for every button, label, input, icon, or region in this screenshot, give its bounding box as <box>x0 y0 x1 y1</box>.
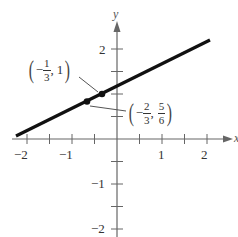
y-axis-arrow-icon <box>114 21 121 32</box>
fraction-two-thirds: 2 3 <box>143 101 151 126</box>
leader-line-point1 <box>79 77 98 92</box>
tick-label-y-neg1: −1 <box>91 177 105 190</box>
tick-label-y-neg2: −2 <box>91 222 105 235</box>
tick-label-y-2: 2 <box>99 43 106 56</box>
tick-label-x-1: 1 <box>158 148 165 161</box>
tick-label-x-neg1: −1 <box>59 148 73 161</box>
coordinate-plane <box>0 0 238 237</box>
tick-label-x-neg2: −2 <box>14 148 28 161</box>
point-label-neg-one-third-one: ( − 1 3 , 1 ) <box>27 55 72 85</box>
point-label-neg-two-thirds-five-sixths: ( − 2 3 , 5 6 ) <box>127 98 174 128</box>
tick-label-x-2: 2 <box>201 148 208 161</box>
x-axis-arrow-icon <box>223 136 233 143</box>
x-axis-label: x <box>234 132 238 144</box>
point-neg-two-thirds-five-sixths <box>84 98 91 105</box>
leader-line-point2 <box>90 106 126 111</box>
point-neg-one-third-one <box>99 91 106 98</box>
y-axis-label: y <box>113 8 118 20</box>
fraction-one-third: 1 3 <box>43 58 51 83</box>
fraction-five-sixths: 5 6 <box>158 101 166 126</box>
